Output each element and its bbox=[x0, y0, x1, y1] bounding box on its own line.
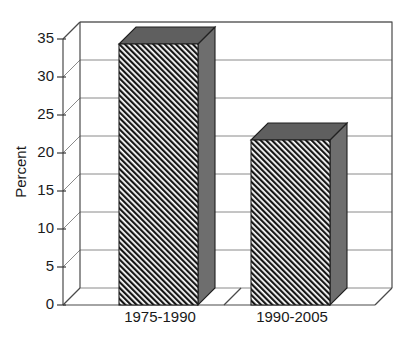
bar-group-1975-1990[interactable] bbox=[119, 27, 215, 305]
bar-top-face-2 bbox=[251, 123, 347, 140]
bar-side-face-1 bbox=[198, 27, 215, 305]
y-tick-label-5: 5 bbox=[46, 257, 54, 274]
x-tick-label-1975-1990: 1975-1990 bbox=[124, 308, 196, 325]
y-tick-label-35: 35 bbox=[37, 29, 54, 46]
chart-canvas: 35 30 25 20 15 10 5 0 Percent bbox=[0, 0, 417, 345]
bar-chart-figure: 35 30 25 20 15 10 5 0 Percent bbox=[0, 0, 417, 345]
bar-front-face-1 bbox=[119, 44, 198, 305]
bar-side-face-2 bbox=[330, 123, 347, 305]
y-tick-label-10: 10 bbox=[37, 219, 54, 236]
y-tick-label-15: 15 bbox=[37, 181, 54, 198]
bar-top-face-1 bbox=[119, 27, 215, 44]
y-tick-label-30: 30 bbox=[37, 67, 54, 84]
y-tick-label-25: 25 bbox=[37, 105, 54, 122]
y-axis-title: Percent bbox=[12, 145, 29, 198]
bar-front-face-2 bbox=[251, 140, 330, 305]
y-tick-label-0: 0 bbox=[46, 295, 54, 312]
left-wall bbox=[63, 22, 80, 305]
y-tick-label-20: 20 bbox=[37, 143, 54, 160]
x-tick-label-1990-2005: 1990-2005 bbox=[256, 308, 328, 325]
bar-group-1990-2005[interactable] bbox=[251, 123, 347, 305]
